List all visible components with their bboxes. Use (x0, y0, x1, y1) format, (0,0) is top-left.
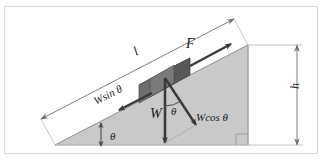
label-applied-force: F (186, 37, 195, 51)
label-weight: W (150, 107, 162, 121)
label-angle-at-base: θ (110, 131, 115, 142)
inclined-plane-diagram (0, 0, 324, 162)
label-angle-at-block: θ (171, 106, 176, 117)
figure-root: — — — — (0, 0, 324, 162)
label-weight-perpendicular: Wcos θ (196, 112, 228, 123)
height-dimension (248, 45, 303, 145)
label-height: h (289, 83, 301, 89)
